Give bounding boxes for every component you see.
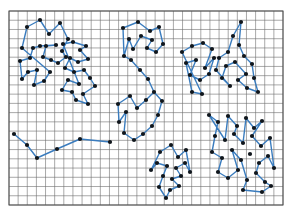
data-point-node	[20, 77, 24, 81]
data-point-node	[239, 20, 243, 24]
data-point-node	[176, 155, 180, 159]
data-point-node	[54, 43, 58, 47]
data-point-node	[226, 50, 230, 54]
data-point-node	[32, 83, 36, 87]
data-point-node	[152, 90, 156, 94]
data-point-node	[145, 46, 149, 50]
data-point-node	[148, 29, 152, 33]
data-point-node	[18, 59, 22, 63]
data-point-node	[177, 184, 181, 188]
data-point-node	[220, 156, 224, 160]
data-point-node	[20, 46, 24, 50]
data-point-node	[64, 55, 68, 59]
data-point-node	[245, 86, 249, 90]
data-point-node	[214, 68, 218, 72]
data-point-node	[71, 40, 75, 44]
data-point-node	[58, 21, 62, 25]
data-point-node	[42, 79, 46, 83]
data-point-node	[55, 147, 59, 151]
data-point-node	[180, 50, 184, 54]
data-point-node	[61, 42, 65, 46]
data-point-node	[68, 56, 72, 60]
data-point-node	[132, 138, 136, 142]
data-point-node	[232, 132, 236, 136]
data-point-node	[164, 196, 168, 200]
data-point-node	[139, 34, 143, 38]
data-point-node	[174, 166, 178, 170]
data-point-node	[228, 84, 232, 88]
data-point-node	[63, 66, 67, 70]
data-point-node	[179, 174, 183, 178]
data-point-node	[235, 124, 239, 128]
data-point-node	[81, 92, 85, 96]
data-point-node	[213, 134, 217, 138]
data-point-node	[116, 102, 120, 106]
data-point-node	[157, 25, 161, 29]
data-point-node	[60, 49, 64, 53]
data-point-node	[154, 50, 158, 54]
data-point-node	[157, 185, 161, 189]
data-point-node	[244, 72, 248, 76]
data-point-node	[203, 66, 207, 70]
data-point-node	[129, 58, 133, 62]
data-point-node	[160, 99, 164, 103]
data-point-node	[224, 64, 228, 68]
data-point-node	[127, 37, 131, 41]
data-point-node	[66, 37, 70, 41]
data-point-node	[272, 166, 276, 170]
data-point-node	[70, 90, 74, 94]
data-point-node	[49, 58, 53, 62]
data-point-node	[146, 77, 150, 81]
data-point-node	[86, 102, 90, 106]
data-point-node	[241, 141, 245, 145]
data-point-node	[184, 148, 188, 152]
data-point-node	[88, 76, 92, 80]
data-point-node	[210, 47, 214, 51]
data-point-node	[149, 168, 153, 172]
data-point-node	[124, 110, 128, 114]
data-point-node	[144, 98, 148, 102]
data-point-node	[207, 72, 211, 76]
data-point-node	[223, 138, 227, 142]
data-point-node	[76, 60, 80, 64]
data-point-node	[216, 120, 220, 124]
data-point-node	[135, 106, 139, 110]
data-point-node	[165, 164, 169, 168]
data-point-node	[12, 132, 16, 136]
data-point-node	[117, 120, 121, 124]
data-point-node	[169, 143, 173, 147]
data-point-node	[194, 58, 198, 62]
data-point-node	[35, 156, 39, 160]
data-point-node	[35, 68, 39, 72]
data-point-node	[136, 20, 140, 24]
data-point-node	[25, 25, 29, 29]
data-point-node	[268, 136, 272, 140]
data-point-node	[38, 18, 42, 22]
data-point-node	[47, 32, 51, 36]
data-point-node	[158, 150, 162, 154]
data-point-node	[236, 168, 240, 172]
data-point-node	[168, 188, 172, 192]
data-point-node	[250, 62, 254, 66]
data-point-node	[38, 44, 42, 48]
data-point-node	[156, 113, 160, 117]
data-point-node	[150, 124, 154, 128]
data-point-node	[220, 76, 224, 80]
data-point-node	[254, 171, 258, 175]
data-point-node	[170, 177, 174, 181]
data-point-node	[86, 57, 90, 61]
data-point-node	[82, 68, 86, 72]
data-point-node	[188, 170, 192, 174]
data-point-node	[210, 150, 214, 154]
data-point-node	[161, 174, 165, 178]
data-point-node	[74, 98, 78, 102]
data-point-node	[84, 44, 88, 48]
data-point-node	[201, 41, 205, 45]
data-point-node	[256, 90, 260, 94]
data-point-node	[212, 56, 216, 60]
data-point-node	[242, 54, 246, 58]
data-point-node	[138, 68, 142, 72]
data-point-node	[48, 70, 52, 74]
data-point-node	[259, 144, 263, 148]
data-point-node	[78, 137, 82, 141]
